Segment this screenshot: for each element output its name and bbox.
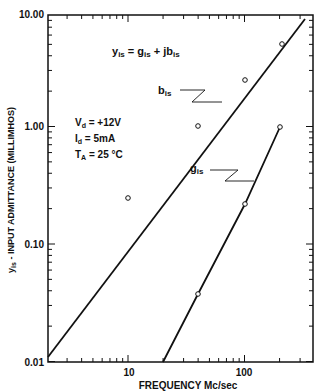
b-is-leader <box>180 90 222 102</box>
y-tick-0.01: 0.01 <box>25 357 45 368</box>
series-g-is-line <box>163 127 280 362</box>
series-b-is-line <box>48 19 305 357</box>
y-axis-label: yis - INPUT ADMITTANCE (MILLIMHOS) <box>6 107 17 273</box>
equation-label: yis = gis + jbis <box>112 45 180 59</box>
y-tick-10: 10.00 <box>19 9 44 20</box>
plot-frame <box>48 15 313 362</box>
g-is-leader <box>210 170 254 181</box>
condition-ta: TA = 25 °C <box>75 149 123 161</box>
axis-ticks <box>48 15 313 362</box>
y-tick-0.1: 0.10 <box>25 239 45 250</box>
x-tick-10: 10 <box>123 367 135 378</box>
b-is-label: bis <box>158 84 172 98</box>
condition-vd: Vd = +12V <box>75 117 121 129</box>
x-axis-label: FREQUENCY Mc/sec <box>139 380 238 391</box>
chart: 10.00 1.00 0.10 0.01 10 100 FREQUENCY Mc… <box>0 0 321 392</box>
svg-text:yis - INPUT ADMITTANCE (MILL: yis - INPUT ADMITTANCE (MILLIMHOS) <box>6 107 17 273</box>
condition-id: Id = 5mA <box>75 133 115 145</box>
x-tick-100: 100 <box>236 367 253 378</box>
g-is-label: gis <box>190 162 204 176</box>
y-tick-1: 1.00 <box>25 121 45 132</box>
